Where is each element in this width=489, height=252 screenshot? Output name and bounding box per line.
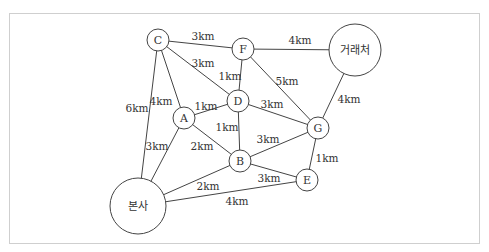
edge-label: 3km — [192, 30, 215, 42]
node-B: B — [229, 150, 251, 172]
node-E: E — [296, 169, 318, 191]
edge-F-G — [243, 49, 318, 128]
node-G: G — [307, 117, 329, 139]
edge-label: 2km — [197, 180, 220, 192]
node-label: D — [234, 95, 243, 108]
edge-label: 4km — [338, 93, 361, 105]
edge-label: 3km — [192, 57, 215, 69]
node-client: 거래처 — [329, 24, 381, 76]
node-label: E — [303, 174, 311, 187]
edge-label: 3km — [146, 140, 169, 152]
edge-label: 4km — [226, 195, 249, 207]
edge-label: 2km — [191, 140, 214, 152]
node-label: B — [236, 155, 244, 168]
node-label: A — [179, 112, 189, 125]
node-D: D — [227, 90, 249, 112]
node-label: G — [314, 122, 323, 135]
edge-label: 5km — [276, 75, 299, 87]
node-F: F — [232, 38, 254, 60]
edge-label: 6km — [126, 102, 149, 114]
edge-label: 3km — [261, 98, 284, 110]
edge-label: 4km — [150, 95, 173, 107]
edge-label: 3km — [257, 133, 280, 145]
edge-label: 1km — [216, 121, 239, 133]
node-A: A — [173, 107, 195, 129]
edge-label: 3km — [258, 172, 281, 184]
edge-label: 4km — [289, 34, 312, 46]
node-label: F — [239, 43, 247, 56]
node-C: C — [147, 29, 169, 51]
node-hq: 본사 — [110, 178, 166, 234]
node-label: C — [154, 34, 162, 47]
node-label: 본사 — [128, 200, 148, 213]
edge-label: 1km — [219, 70, 242, 82]
edge-label: 1km — [195, 100, 218, 112]
network-graph: 3km3km4km6km4km1km5km4km1km3km1km2km3km3… — [0, 0, 489, 252]
node-label: 거래처 — [340, 44, 370, 57]
edge-label: 1km — [316, 152, 339, 164]
